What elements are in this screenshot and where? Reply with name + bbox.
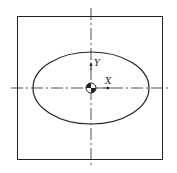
centroid-symbol (86, 83, 96, 93)
x-axis-arrow-icon (103, 87, 111, 90)
x-axis-label: X (104, 76, 112, 86)
y-axis-label: Y (94, 58, 101, 68)
diagram-canvas: Y X (0, 0, 177, 173)
y-axis-arrow-icon (90, 62, 93, 70)
